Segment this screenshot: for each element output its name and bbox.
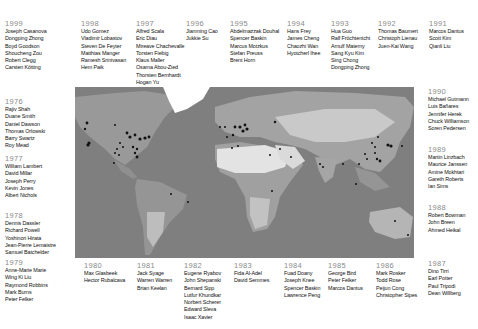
member-name: Qianli Liu xyxy=(429,43,464,50)
member-name: Kevin Jones xyxy=(5,185,42,192)
member-name: Michael Gutmann xyxy=(428,96,469,103)
member-name: Albert Nichols xyxy=(5,192,42,199)
member-name: Spencer Baskin xyxy=(230,35,279,42)
member-name: David Millar xyxy=(5,170,42,177)
member-name: Spencer Baskin xyxy=(284,285,320,292)
member-name: Gareth Roberts xyxy=(428,176,467,183)
group-year: 1985 xyxy=(328,262,363,270)
member-name: Juen-Kai Wang xyxy=(378,43,418,50)
member-name: Mark Rosker xyxy=(376,270,417,277)
alumni-group-1999: 1999Joseph CasanovaDongping ZhongBoyd Go… xyxy=(5,20,47,72)
alumni-group-1998: 1998Udo GomezVladimir LobastovSteven De … xyxy=(81,20,126,72)
alumni-group-1979: 1979Anne-Marie MarieWing Ki LiuRaymond R… xyxy=(5,259,48,303)
member-name: Warren Warren xyxy=(137,277,172,284)
member-name: Stefan Preuss xyxy=(230,50,279,57)
member-name: Brent Horn xyxy=(230,57,279,64)
alumni-group-1980: 1980Max GlasbeekHector Rubalcava xyxy=(84,262,125,285)
alumni-group-1987: 1987Dino TirriEarl PotterPaul TripodiDea… xyxy=(428,260,461,297)
member-name: Udo Gomez xyxy=(81,28,126,35)
member-name: Dean Willberg xyxy=(428,290,461,297)
member-name: Daniel Dawson xyxy=(5,121,45,128)
member-name: Jack Syage xyxy=(137,270,172,277)
member-name: Wing Ki Liu xyxy=(5,274,48,281)
member-name: Robert Bowman xyxy=(428,212,465,219)
alumni-group-1985: 1985George BirdPeter FelkerMarcos Dantus xyxy=(328,262,363,292)
member-name: Matthias Manger xyxy=(81,50,126,57)
member-name: Mireave Chachevalle xyxy=(136,43,184,50)
member-name: Scott Kim xyxy=(429,35,464,42)
alumni-group-1996: 1996Jianming CaoJukkie Su xyxy=(186,20,218,43)
member-name: David Semmes xyxy=(234,277,269,284)
member-name: Thorsten Bernhardt xyxy=(136,72,184,79)
member-name: Jianming Cao xyxy=(186,28,218,35)
member-name: Duane Smith xyxy=(5,113,45,120)
member-name: Klaus Maller xyxy=(136,57,184,64)
group-year: 1997 xyxy=(136,20,184,28)
member-name: Eric Diau xyxy=(136,35,184,42)
member-name: Alfred Scala xyxy=(136,28,184,35)
group-year: 1983 xyxy=(234,262,269,270)
member-name: George Bird xyxy=(328,270,363,277)
group-year: 1992 xyxy=(378,20,418,28)
member-name: Christopher Sipes xyxy=(376,292,417,299)
member-name: Dongping Zhong xyxy=(331,64,370,71)
group-year: 1982 xyxy=(184,262,221,270)
member-name: Peijun Cong xyxy=(376,285,417,292)
member-name: Richard Powell xyxy=(5,227,56,234)
member-name: Christoph Lienau xyxy=(378,35,418,42)
member-name: Ramesh Srinivasan xyxy=(81,57,126,64)
group-year: 1996 xyxy=(186,20,218,28)
member-name: Brian Keelan xyxy=(137,285,172,292)
member-name: Joseph Casanova xyxy=(5,28,47,35)
member-name: Dongping Zhong xyxy=(5,35,47,42)
member-name: Thomas Baumert xyxy=(378,28,418,35)
group-year: 1993 xyxy=(331,20,370,28)
alumni-group-1981: 1981Jack SyageWarren WarrenBrian Keelan xyxy=(137,262,172,292)
member-name: James Cheng xyxy=(287,35,320,42)
member-name: Luis Bañares xyxy=(428,103,469,110)
member-name: Carsten Kötting xyxy=(5,64,47,71)
alumni-group-1993: 1993Hua GuoRalf FröchtenichtArnulf Mater… xyxy=(331,20,370,72)
member-name: Mark Burns xyxy=(5,289,48,296)
member-name: Lutfur Khundkar xyxy=(184,292,221,299)
member-name: Boyd Goodson xyxy=(5,43,47,50)
member-name: Lawrence Peng xyxy=(284,292,320,299)
member-name: Peter Felker xyxy=(328,277,363,284)
member-name: Dennis Dassler xyxy=(5,220,56,227)
member-name: Raymond Robbins xyxy=(5,282,48,289)
member-name: Edward Sleva xyxy=(184,306,221,313)
member-name: Paul Tripodi xyxy=(428,283,461,290)
member-name: Isaac Xavier xyxy=(184,314,221,321)
member-name: John Shepanski xyxy=(184,277,221,284)
group-year: 1988 xyxy=(428,204,465,212)
group-year: 1978 xyxy=(5,212,56,220)
member-name: Steven De Feyter xyxy=(81,43,126,50)
member-name: Maurice Janssen xyxy=(428,161,467,168)
world-map xyxy=(75,87,414,258)
member-name: Eugene Ryabov xyxy=(184,270,221,277)
member-name: Thomas Orlowski xyxy=(5,128,45,135)
member-name: Ahmed Heikal xyxy=(428,227,465,234)
member-name: Fida Al-Adel xyxy=(234,270,269,277)
alumni-group-1994: 1994Hans FreyJames ChengChaozhi WanHyotc… xyxy=(287,20,320,57)
member-name: Martin Linzbach xyxy=(428,154,467,161)
alumni-group-1977: 1977William LambertDavid MillarJoseph Pe… xyxy=(5,155,42,199)
member-name: Vladimir Lobastov xyxy=(81,35,126,42)
group-year: 1998 xyxy=(81,20,126,28)
alumni-group-1976: 1976Rajiv ShahDuane SmithDaniel DawsonTh… xyxy=(5,98,45,150)
member-name: Hyotcherl Ihee xyxy=(287,50,320,57)
alumni-group-1989: 1989Martin LinzbachMaurice JanssenAmine … xyxy=(428,146,467,190)
member-name: Joseph Knee xyxy=(284,277,320,284)
group-year: 1987 xyxy=(428,260,461,268)
group-year: 1991 xyxy=(429,20,464,28)
member-name: Bernard Sipp xyxy=(184,285,221,292)
member-name: William Lambert xyxy=(5,163,42,170)
member-name: Joseph Perry xyxy=(5,178,42,185)
member-name: Jennifer Herek xyxy=(428,111,469,118)
member-name: Shoucheng Zou xyxy=(5,50,47,57)
group-year: 1976 xyxy=(5,98,45,106)
member-name: Hector Rubalcava xyxy=(84,277,125,284)
member-name: Marcus Motzkus xyxy=(230,43,279,50)
member-name: Ralf Fröchtenicht xyxy=(331,35,370,42)
group-year: 1994 xyxy=(287,20,320,28)
